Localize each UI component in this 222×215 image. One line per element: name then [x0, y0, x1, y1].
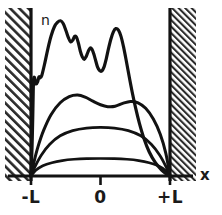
x-axis-label: x: [200, 166, 210, 184]
x-tick-label-plus-L: +L: [157, 187, 183, 207]
figure-container: -L 0 +L x n: [0, 0, 222, 215]
x-tick-label-zero: 0: [94, 187, 106, 207]
right-wall-hatching: [171, 8, 196, 181]
n-curve-label: n: [41, 12, 50, 28]
left-wall-hatching: [5, 8, 30, 181]
x-tick-label-minus-L: -L: [22, 187, 41, 207]
square-well-plot: -L 0 +L x n: [0, 0, 222, 215]
